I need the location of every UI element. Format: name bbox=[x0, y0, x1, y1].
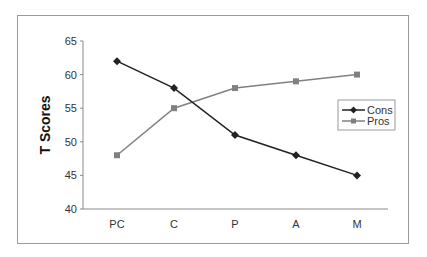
x-ticks: PCCPAM bbox=[109, 218, 361, 230]
diamond-marker-icon bbox=[113, 57, 121, 65]
series-cons bbox=[113, 57, 361, 179]
y-tick-label: 50 bbox=[65, 136, 77, 148]
diamond-marker-icon bbox=[353, 171, 361, 179]
y-axis-label: T Scores bbox=[37, 95, 53, 154]
diamond-marker-icon bbox=[292, 151, 300, 159]
x-tick-label: M bbox=[352, 218, 361, 230]
y-tick-label: 40 bbox=[65, 203, 77, 215]
y-tick-label: 60 bbox=[65, 69, 77, 81]
x-tick-label: C bbox=[170, 218, 178, 230]
square-marker-icon bbox=[351, 119, 356, 124]
y-tick-label: 55 bbox=[65, 102, 77, 114]
square-marker-icon bbox=[354, 72, 360, 78]
x-tick-label: A bbox=[292, 218, 300, 230]
series-layer bbox=[113, 57, 361, 179]
x-tick-label: PC bbox=[109, 218, 124, 230]
legend-label-pros: Pros bbox=[367, 115, 390, 127]
square-marker-icon bbox=[232, 85, 238, 91]
square-marker-icon bbox=[114, 152, 120, 158]
series-pros bbox=[114, 72, 360, 159]
y-ticks: 404550556065 bbox=[65, 35, 83, 215]
square-marker-icon bbox=[293, 78, 299, 84]
square-marker-icon bbox=[171, 105, 177, 111]
y-tick-label: 65 bbox=[65, 35, 77, 47]
line-chart: 404550556065 PCCPAM T Scores Cons Pros bbox=[0, 0, 427, 257]
y-tick-label: 45 bbox=[65, 169, 77, 181]
x-tick-label: P bbox=[231, 218, 238, 230]
legend: Cons Pros bbox=[338, 100, 395, 130]
